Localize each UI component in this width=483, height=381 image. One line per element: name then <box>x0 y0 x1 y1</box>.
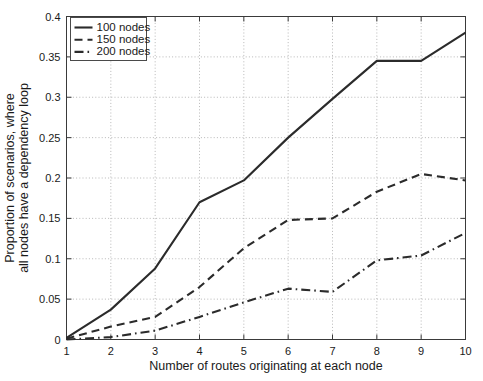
x-axis-title: Number of routes originating at each nod… <box>149 359 383 373</box>
legend-label: 200 nodes <box>97 45 151 57</box>
y-axis-title-line1: Proportion of scenarios, where <box>3 93 17 263</box>
y-tick-label: 0.4 <box>45 11 60 23</box>
x-tick-label: 6 <box>285 345 291 357</box>
x-tick-label: 3 <box>152 345 158 357</box>
chart-legend[interactable]: 100 nodes150 nodes200 nodes <box>71 18 151 61</box>
x-tick-label: 9 <box>418 345 424 357</box>
y-tick-label: 0.15 <box>39 212 60 224</box>
axis-tick-labels: 1234567891000.050.10.150.20.250.30.350.4 <box>39 11 472 357</box>
x-tick-label: 2 <box>108 345 114 357</box>
legend-label: 150 nodes <box>97 33 151 45</box>
data-series <box>67 33 466 340</box>
y-tick-label: 0.25 <box>39 132 60 144</box>
y-tick-label: 0.2 <box>45 172 60 184</box>
line-chart: 1234567891000.050.10.150.20.250.30.350.4… <box>0 0 483 381</box>
gridlines <box>67 17 466 340</box>
axis-ticks <box>67 17 466 340</box>
y-tick-label: 0 <box>54 334 60 346</box>
y-tick-label: 0.3 <box>45 91 60 103</box>
series-line-200-nodes <box>67 233 466 340</box>
y-axis-title-line2: all nodes have a dependency loop <box>17 83 31 273</box>
axis-titles: Number of routes originating at each nod… <box>3 83 383 373</box>
y-tick-label: 0.05 <box>39 293 60 305</box>
x-tick-label: 8 <box>374 345 380 357</box>
plot-frame <box>67 17 466 340</box>
x-tick-label: 10 <box>459 345 471 357</box>
series-line-100-nodes <box>67 33 466 338</box>
x-tick-label: 5 <box>241 345 247 357</box>
x-tick-label: 4 <box>196 345 202 357</box>
y-tick-label: 0.1 <box>45 253 60 265</box>
figure-container: 1234567891000.050.10.150.20.250.30.350.4… <box>0 0 483 381</box>
x-tick-label: 7 <box>329 345 335 357</box>
legend-label: 100 nodes <box>97 21 151 33</box>
plot-axes <box>67 17 466 340</box>
y-tick-label: 0.35 <box>39 51 60 63</box>
x-tick-label: 1 <box>63 345 69 357</box>
